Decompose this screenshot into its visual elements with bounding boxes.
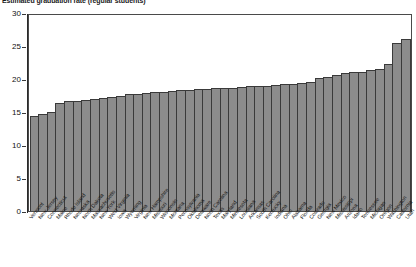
y-axis-tick-label: 15 xyxy=(12,109,21,117)
y-axis-tick-mark xyxy=(22,47,26,48)
y-axis-tick-mark xyxy=(22,146,26,147)
y-axis-tick-mark xyxy=(22,14,26,15)
y-axis-tick-label: 20 xyxy=(12,76,21,84)
y-axis-tick-mark xyxy=(22,179,26,180)
chart-title: Estimated graduation rate (regular stude… xyxy=(2,0,145,5)
y-axis-tick-mark xyxy=(22,80,26,81)
y-axis-tick-mark xyxy=(22,212,26,213)
y-axis-tick-label: 30 xyxy=(12,10,21,18)
bar[interactable] xyxy=(401,39,411,211)
y-axis-tick-label: 10 xyxy=(12,142,21,150)
y-axis: 051015202530 xyxy=(0,14,26,212)
plot-area xyxy=(28,14,412,212)
y-axis-tick-label: 25 xyxy=(12,43,21,51)
y-axis-tick-label: 5 xyxy=(17,175,21,183)
bars-layer xyxy=(29,15,411,211)
y-axis-tick-label: 0 xyxy=(17,208,21,216)
y-axis-tick-mark xyxy=(22,113,26,114)
x-axis: VermontNew JerseyConnecticutMaineRhode I… xyxy=(28,213,412,267)
